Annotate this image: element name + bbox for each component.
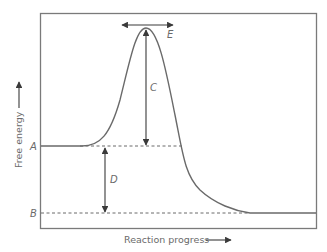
plot-frame <box>41 14 317 229</box>
label-b: B <box>30 208 37 219</box>
label-e: E <box>167 29 174 40</box>
x-axis-label: Reaction progress <box>124 234 209 245</box>
label-a: A <box>29 141 37 152</box>
label-d: D <box>110 174 118 185</box>
energy-curve <box>41 28 316 213</box>
y-axis-label: Free energy <box>13 111 24 168</box>
label-c: C <box>150 82 157 93</box>
energy-diagram: E C D A B Free energy Reaction progress <box>0 0 327 252</box>
